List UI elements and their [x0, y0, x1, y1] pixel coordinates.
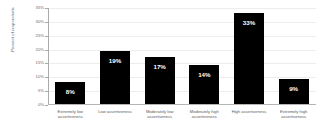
tick-mark [45, 8, 48, 9]
x-axis-category-label: Moderately low assertiveness [139, 109, 180, 119]
bar[interactable]: 14% [189, 65, 219, 104]
y-axis-tick-label: 0% [38, 103, 44, 107]
tick-mark [45, 105, 48, 106]
x-axis-line [48, 104, 316, 105]
gridline [49, 8, 316, 9]
x-axis-category-label: Low assertiveness [95, 109, 136, 114]
y-axis-tick-label: 15% [36, 61, 44, 65]
x-axis-category-label: Moderately high assertiveness [184, 109, 225, 119]
x-axis-category-label: Extremely low assertiveness [50, 109, 91, 119]
bar[interactable]: 8% [55, 82, 85, 104]
bar-value-label: 14% [189, 72, 219, 78]
bar-value-label: 33% [234, 20, 264, 26]
y-axis-title: Percent of respondents [10, 0, 15, 66]
bar[interactable]: 9% [279, 79, 309, 104]
tick-mark [45, 91, 48, 92]
bar[interactable]: 19% [100, 51, 130, 104]
x-axis-category-label: High assertiveness [229, 109, 270, 114]
tick-mark [45, 63, 48, 64]
y-axis-tick-label: 20% [36, 47, 44, 51]
bar-value-label: 17% [145, 64, 175, 70]
tick-mark [45, 22, 48, 23]
tick-mark [45, 77, 48, 78]
bar-value-label: 19% [100, 58, 130, 64]
gridline [49, 36, 316, 37]
bar[interactable]: 17% [145, 57, 175, 104]
gridline [49, 63, 316, 64]
bar-value-label: 9% [279, 86, 309, 92]
x-axis-category-label: Extremely high assertiveness [273, 109, 314, 119]
plot-area: 0%5%10%15%20%25%30%35% 8%19%17%14%33%9% [48, 8, 316, 105]
bar[interactable]: 33% [234, 13, 264, 104]
y-axis-tick-label: 30% [36, 20, 44, 24]
gridline [49, 50, 316, 51]
bar-value-label: 8% [55, 89, 85, 95]
gridline [49, 22, 316, 23]
gridline [49, 91, 316, 92]
gridline [49, 77, 316, 78]
y-axis-tick-label: 5% [38, 89, 44, 93]
y-axis-tick-label: 10% [36, 75, 44, 79]
bar-chart: Percent of respondents 0%5%10%15%20%25%3… [0, 0, 325, 132]
tick-mark [45, 36, 48, 37]
y-axis-tick-label: 35% [36, 6, 44, 10]
y-axis-tick-label: 25% [36, 34, 44, 38]
tick-mark [45, 50, 48, 51]
